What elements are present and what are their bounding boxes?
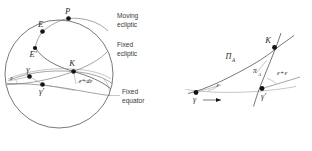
callout-moving-ecliptic-line2: ecliptic — [117, 21, 138, 29]
callout-fixed-ecliptic: Fixed ecliptic — [117, 41, 138, 58]
right-point-gamma-prime — [260, 86, 265, 91]
right-diagram: γ K γ′ Π A π A ε ε+ε — [186, 33, 301, 107]
right-label-eps-plus-eps: ε+ε — [277, 69, 287, 77]
right-label-pi-A: π A — [253, 66, 262, 77]
fixed-ecliptic-curve — [9, 71, 113, 84]
label-epsilon-left: ε — [10, 74, 13, 81]
right-label-pi-A-main: π — [253, 66, 257, 75]
fixed-equator-curve — [7, 84, 110, 96]
point-gamma — [27, 74, 32, 79]
right-point-K — [272, 45, 277, 50]
angle-arc-epsilon-left — [16, 80, 18, 83]
left-diagram: P E E′ γ γ′ K ε ε+dε Moving ecliptic Fix… — [5, 6, 145, 129]
point-E — [40, 29, 45, 34]
right-label-gamma-prime: γ′ — [261, 92, 266, 101]
point-K — [71, 69, 76, 74]
right-moving-ecliptic-line — [188, 36, 294, 94]
callout-fixed-equator-line2: equator — [122, 97, 145, 105]
label-E-prime: E′ — [28, 49, 36, 59]
callout-fixed-equator: Fixed equator — [122, 88, 145, 105]
right-label-epsilon: ε — [217, 81, 220, 89]
callout-moving-ecliptic-line1: Moving — [117, 12, 139, 20]
callout-moving-ecliptic: Moving ecliptic — [117, 12, 139, 29]
right-label-Pi-A: Π A — [225, 52, 236, 63]
angle-arc-eps-plus-eps — [267, 79, 276, 84]
pole-connector-E-Eprime — [35, 32, 42, 48]
label-K: K — [68, 58, 76, 68]
astronomy-figure: P E E′ γ γ′ K ε ε+dε Moving ecliptic Fix… — [0, 0, 312, 151]
gamma-prime-to-K-line — [7, 52, 108, 85]
right-label-Pi-A-sub: A — [231, 57, 236, 63]
callout-fixed-ecliptic-line2: ecliptic — [117, 50, 138, 58]
moving-ecliptic-curve — [35, 48, 110, 89]
celestial-sphere-outline — [5, 20, 113, 128]
label-epsilon-plus-depsilon: ε+dε — [79, 77, 93, 84]
ecliptic-pencil-arc-upper — [8, 69, 111, 79]
motion-arrow — [203, 98, 221, 102]
point-P — [66, 16, 71, 21]
label-P: P — [64, 6, 70, 16]
label-E: E — [37, 19, 44, 29]
callout-fixed-equator-line1: Fixed — [122, 88, 138, 95]
label-gamma-prime: γ′ — [39, 86, 44, 96]
right-label-gamma: γ — [193, 95, 197, 104]
right-label-pi-A-sub: A — [257, 72, 262, 77]
right-label-K: K — [264, 35, 272, 45]
callout-fixed-ecliptic-line1: Fixed — [117, 41, 133, 48]
